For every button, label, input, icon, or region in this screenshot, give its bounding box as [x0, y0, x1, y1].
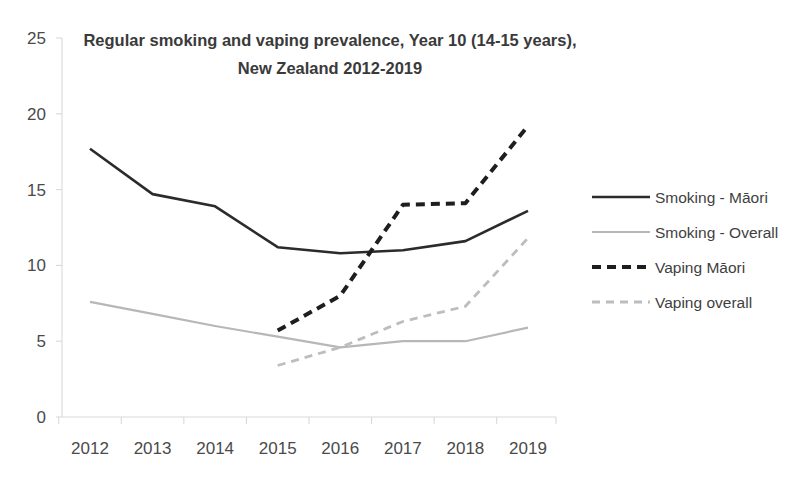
y-tick-label: 10 [27, 256, 46, 275]
x-tick-label: 2013 [134, 439, 172, 458]
legend-label: Vaping overall [655, 294, 752, 311]
legend-item[interactable]: Vaping overall [592, 294, 752, 311]
x-tick-group: 20122013201420152016201720182019 [59, 417, 556, 458]
y-tick-label: 25 [27, 29, 46, 48]
x-axis: 20122013201420152016201720182019 [59, 417, 556, 458]
series-line-0 [90, 149, 528, 254]
x-tick-label: 2018 [447, 439, 485, 458]
x-tick-label: 2017 [384, 439, 422, 458]
chart-legend: Smoking - MāoriSmoking - OverallVaping M… [592, 189, 778, 311]
x-tick-label: 2016 [321, 439, 359, 458]
legend-label: Smoking - Overall [655, 224, 778, 241]
y-tick-label: 0 [37, 408, 46, 427]
series-group [90, 126, 528, 366]
y-tick-label: 5 [37, 332, 46, 351]
y-axis: 0510152025 [27, 29, 62, 427]
x-tick-label: 2015 [259, 439, 297, 458]
chart-container: Regular smoking and vaping prevalence, Y… [0, 0, 811, 481]
legend-label: Smoking - Māori [655, 189, 768, 206]
y-tick-group: 0510152025 [27, 29, 62, 427]
series-line-1 [90, 302, 528, 348]
y-tick-label: 15 [27, 181, 46, 200]
legend-label: Vaping Māori [655, 259, 745, 276]
x-tick-label: 2012 [71, 439, 109, 458]
x-tick-label: 2019 [509, 439, 547, 458]
line-chart: Regular smoking and vaping prevalence, Y… [0, 0, 811, 481]
legend-item[interactable]: Smoking - Māori [592, 189, 768, 206]
legend-item[interactable]: Smoking - Overall [592, 224, 778, 241]
y-tick-label: 20 [27, 105, 46, 124]
chart-title-line-1: Regular smoking and vaping prevalence, Y… [83, 31, 576, 49]
legend-item[interactable]: Vaping Māori [592, 259, 745, 276]
chart-title-line-2: New Zealand 2012-2019 [238, 59, 422, 77]
series-line-3 [278, 238, 528, 365]
x-tick-label: 2014 [196, 439, 234, 458]
